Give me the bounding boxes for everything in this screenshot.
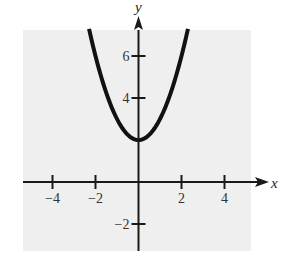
- graph: −4−224−246 x y: [0, 0, 290, 260]
- y-tick-label: 4: [123, 91, 130, 106]
- y-tick-label: 6: [123, 49, 130, 64]
- y-axis-arrow-icon: [134, 16, 143, 30]
- x-tick-label: −2: [88, 191, 103, 206]
- x-tick-label: −4: [45, 191, 60, 206]
- x-tick-label: 4: [221, 191, 228, 206]
- x-tick-label: 2: [178, 191, 185, 206]
- y-axis-label: y: [133, 0, 142, 15]
- x-axis-label: x: [270, 175, 278, 191]
- y-tick-label: −2: [115, 217, 130, 232]
